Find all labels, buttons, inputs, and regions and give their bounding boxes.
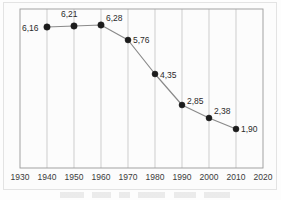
x-tick-1940: 1940	[38, 172, 57, 182]
x-tick-1980: 1980	[146, 172, 165, 182]
data-label-1960: 6,28	[106, 13, 123, 23]
data-point-1960	[98, 22, 104, 28]
x-tick-2020: 2020	[254, 172, 273, 182]
data-label-1970: 5,76	[133, 35, 150, 45]
data-label-1940: 6,16	[22, 23, 39, 33]
data-point-1970	[125, 37, 131, 43]
x-tick-2010: 2010	[227, 172, 246, 182]
data-point-1950	[71, 23, 77, 29]
data-label-1950: 6,21	[61, 9, 78, 19]
data-point-1990	[179, 102, 185, 108]
data-point-2010	[233, 126, 239, 132]
data-label-2010: 1,90	[241, 124, 258, 134]
x-tick-1930: 1930	[11, 172, 30, 182]
x-axis-tick-labels: 1930 1940 1950 1960 1970 1980 1990 2000 …	[11, 172, 273, 182]
x-tick-1990: 1990	[173, 172, 192, 182]
chart-screenshot: 6,16 6,21 6,28 5,76 4,35 2,85 2,38 1,90 …	[0, 0, 281, 200]
data-point-1940	[44, 24, 50, 30]
data-label-1990: 2,85	[187, 96, 204, 106]
plot-border	[20, 9, 263, 168]
x-tick-1970: 1970	[119, 172, 138, 182]
data-point-2000	[206, 115, 212, 121]
plot-canvas: 6,16 6,21 6,28 5,76 4,35 2,85 2,38 1,90 …	[0, 0, 281, 200]
line-chart: 6,16 6,21 6,28 5,76 4,35 2,85 2,38 1,90 …	[0, 0, 281, 200]
data-label-1980: 4,35	[160, 70, 177, 80]
x-tick-1960: 1960	[92, 172, 111, 182]
data-point-1980	[152, 71, 158, 77]
data-point-labels: 6,16 6,21 6,28 5,76 4,35 2,85 2,38 1,90	[22, 9, 258, 134]
data-label-2000: 2,38	[214, 106, 231, 116]
x-tick-1950: 1950	[65, 172, 84, 182]
clipped-caption-ghost	[60, 192, 230, 198]
x-tick-2000: 2000	[200, 172, 219, 182]
gridlines-vertical	[47, 9, 236, 168]
